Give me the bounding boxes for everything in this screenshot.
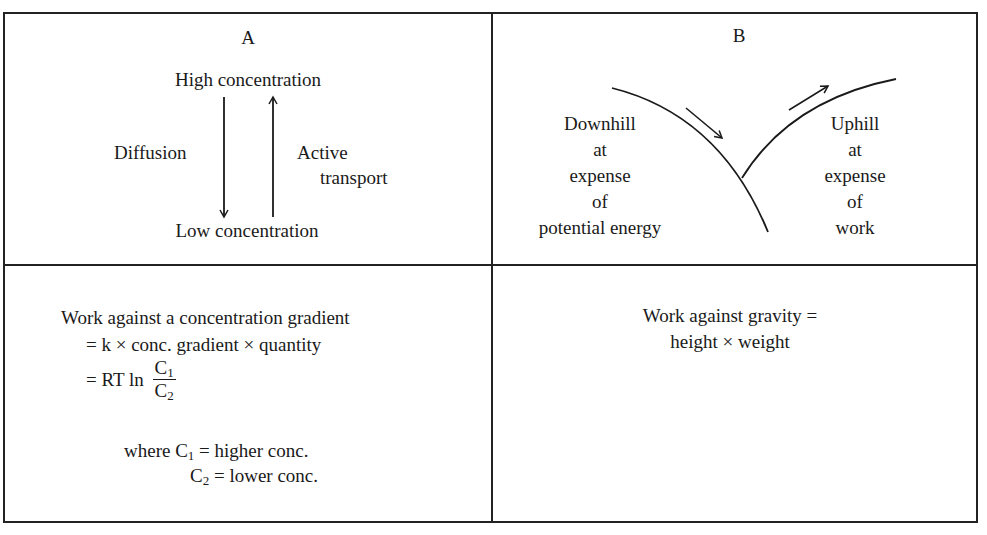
fraction-numerator: C1 (153, 357, 176, 380)
concentration-work-formula: = RT ln C1 C2 (86, 357, 176, 402)
downhill-arrow-icon (686, 108, 722, 138)
uphill-curve (742, 79, 896, 178)
where-c2-line: C2 = lower conc. (190, 464, 318, 488)
fraction-denominator: C2 (153, 380, 176, 402)
uphill-arrow-icon (789, 86, 828, 110)
gravity-work-line-1: Work against gravity = (600, 304, 860, 328)
concentration-work-line-1: Work against a concentration gradient (61, 306, 350, 330)
formula-prefix: = RT ln (86, 369, 144, 390)
gravity-work-line-2: height × weight (600, 330, 860, 354)
downhill-curve (612, 88, 768, 232)
concentration-work-line-2: = k × conc. gradient × quantity (86, 333, 321, 357)
where-c1-line: where C1 = higher conc. (124, 439, 308, 463)
fraction-c1-over-c2: C1 C2 (153, 357, 176, 402)
